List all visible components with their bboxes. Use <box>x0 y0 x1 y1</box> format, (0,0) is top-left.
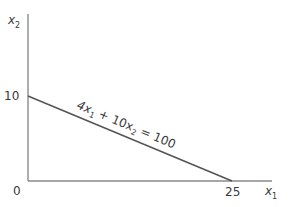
x-axis-label: x1 <box>264 184 277 201</box>
chart-canvas: x2 10 0 25 x1 4x1 + 10x2 = 100 <box>0 0 289 207</box>
origin-label: 0 <box>13 184 21 198</box>
equation-annotation: 4x1 + 10x2 = 100 <box>74 98 178 153</box>
constraint-line <box>28 96 232 181</box>
y-tick-10: 10 <box>4 89 19 103</box>
y-axis-label: x2 <box>7 13 20 30</box>
x-tick-25: 25 <box>225 185 240 199</box>
svg-text:4x1 + 10x2 = 100: 4x1 + 10x2 = 100 <box>74 98 178 153</box>
